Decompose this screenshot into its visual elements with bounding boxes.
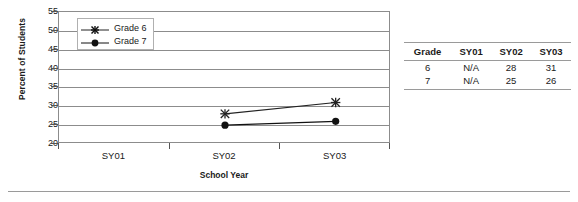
table-column-header: SY03 [531,43,571,61]
asterisk-marker-icon [80,22,110,34]
line-chart: Percent of Students 5550454035302520 [0,0,398,192]
y-tick-mark [51,143,58,144]
x-tick-mark [279,143,280,149]
y-tick-mark [51,49,58,50]
legend-item-grade-6: Grade 6 [80,21,147,34]
legend-item-grade-7: Grade 7 [80,34,147,47]
table-column-header: SY02 [491,43,531,61]
data-table: GradeSY01SY02SY03 6N/A28317N/A2526 [404,42,571,89]
series-line [225,121,336,125]
figure-container: Percent of Students 5550454035302520 [0,0,578,202]
table-body: 6N/A28317N/A2526 [404,61,571,90]
chart-legend: Grade 6 Grade 7 [77,18,154,50]
table-cell: 7 [404,74,451,89]
x-axis-ticks [58,143,390,150]
table-cell: N/A [451,74,491,89]
table-cell: 31 [531,61,571,75]
table-cell: N/A [451,61,491,75]
y-tick-mark [51,105,58,106]
y-tick-mark [51,11,58,12]
x-tick-mark [58,143,59,149]
table-row: 7N/A2526 [404,74,571,89]
table-column-header: SY01 [451,43,491,61]
x-axis-tick-labels: SY01SY02SY03 [58,150,390,164]
table-head: GradeSY01SY02SY03 [404,43,571,61]
x-axis-title: School Year [58,170,390,180]
legend-label-grade-7: Grade 7 [110,36,147,46]
table-bottom-rule [404,89,571,90]
table-column-header: Grade [404,43,451,61]
y-tick-mark [51,30,58,31]
table-cell: 26 [531,74,571,89]
table-cell: 25 [491,74,531,89]
y-tick-mark [51,68,58,69]
x-tick-label: SY03 [323,150,346,161]
x-tick-label: SY02 [212,150,235,161]
data-point-marker [331,98,340,107]
table-cell: 28 [491,61,531,75]
plot-area: Grade 6 Grade 7 [58,11,390,143]
figure-bottom-rule [8,191,570,192]
y-axis-ticks: 5550454035302520 [0,11,58,143]
x-tick-mark [169,143,170,149]
y-tick-mark [51,86,58,87]
table-row: 6N/A2831 [404,61,571,75]
series-line [225,103,336,114]
data-point-marker [221,122,228,129]
table-header-row: GradeSY01SY02SY03 [404,43,571,61]
data-table-container: GradeSY01SY02SY03 6N/A28317N/A2526 [404,42,571,90]
circle-marker-icon [80,35,110,47]
x-tick-mark [389,143,390,149]
table-cell: 6 [404,61,451,75]
data-point-marker [332,118,339,125]
data-point-marker [220,109,229,118]
x-tick-label: SY01 [102,150,125,161]
y-tick-mark [51,124,58,125]
legend-label-grade-6: Grade 6 [110,23,147,33]
